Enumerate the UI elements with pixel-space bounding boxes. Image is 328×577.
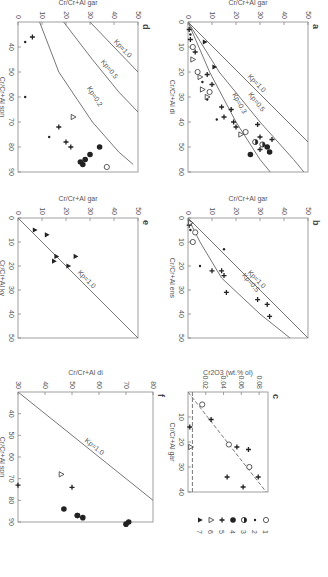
x-tick-label: 10	[178, 413, 185, 421]
x-tick-label: 50	[8, 431, 15, 439]
open-triangle-marker	[209, 517, 214, 522]
x-tick-label: 40	[8, 410, 15, 418]
y-tick-label: 20	[63, 207, 70, 215]
plus-marker	[234, 445, 239, 450]
x-tick-label: 80	[8, 143, 15, 151]
plus-marker	[225, 475, 230, 480]
plus-marker	[16, 483, 21, 488]
small-dot-marker	[201, 81, 203, 83]
plus-marker	[222, 273, 227, 278]
y-tick-label: 40	[42, 381, 49, 389]
legend-item-label: 7	[196, 530, 203, 534]
curve-kp-1-0	[18, 392, 153, 500]
x-tick-label: 80	[8, 496, 15, 504]
x-tick-label: 30	[178, 463, 185, 471]
y-tick-label: 50	[135, 207, 142, 215]
plus-marker	[193, 50, 198, 55]
open-triangle-marker	[191, 57, 196, 62]
x-tick-label: 30	[178, 286, 185, 294]
open-circle-marker	[200, 402, 205, 407]
x-tick-label: 40	[8, 43, 15, 51]
open-triangle-marker	[59, 472, 64, 477]
y-tick-label: 10	[39, 207, 46, 215]
panel-label: c	[271, 394, 281, 399]
filled-triangle-marker	[198, 517, 203, 522]
curve-kp-0-3	[188, 22, 274, 177]
y-tick-label: 60	[96, 381, 103, 389]
x-tick-label: 40	[178, 488, 185, 496]
x-tick-label: 70	[8, 475, 15, 483]
y-axis-label: Cr/Cr+Al di	[68, 369, 103, 376]
plus-marker	[258, 147, 263, 152]
y-axis-label: Cr/Cr+Al gar	[228, 195, 268, 203]
open-circle-marker	[226, 442, 231, 447]
filled-circle-marker	[80, 515, 86, 521]
curve-kp-1-0	[188, 22, 308, 142]
filled-circle-marker	[75, 513, 81, 519]
x-axis-label: Cr/Cr+Al spn	[0, 437, 6, 477]
y-tick-label: 0.06	[238, 375, 245, 389]
open-circle-marker	[263, 517, 268, 522]
y-tick-label: 0.04	[220, 375, 227, 389]
filled-circle-marker	[230, 517, 236, 523]
panel-d: 40506070809001020304050Kp=1.0Kp=0.5Kp=0.…	[0, 0, 151, 176]
x-tick-label: 60	[8, 453, 15, 461]
open-triangle-marker	[198, 74, 203, 79]
plus-marker	[70, 485, 75, 490]
y-tick-label: 40	[281, 11, 288, 19]
plus-marker	[210, 268, 215, 273]
panel-c: 102030400.020.040.060.08cCr/Cr+Al garCr2…	[168, 369, 281, 496]
panel-label: b	[311, 220, 321, 226]
x-tick-label: 10	[178, 43, 185, 51]
x-tick-label: 40	[178, 310, 185, 318]
y-tick-label: 20	[63, 11, 70, 19]
plus-marker	[219, 268, 224, 273]
panel-label: d	[141, 24, 151, 30]
plus-marker	[246, 447, 251, 452]
x-tick-label: 0	[8, 216, 15, 220]
filled-triangle-marker	[45, 232, 50, 237]
y-axis-label: Cr/Cr+Al gar	[58, 0, 98, 7]
y-tick-label: 0.02	[202, 375, 209, 389]
x-tick-label: 50	[178, 334, 185, 342]
plus-marker	[258, 135, 263, 140]
plot-frame	[18, 392, 153, 522]
y-tick-label: 30	[87, 207, 94, 215]
x-tick-label: 60	[178, 168, 185, 176]
plus-marker	[265, 302, 270, 307]
small-dot-marker	[254, 519, 256, 521]
curve-label: Kp=0.5	[246, 91, 266, 114]
x-tick-label: 50	[178, 143, 185, 151]
y-tick-label: 50	[305, 207, 312, 215]
y-tick-label: 0	[185, 211, 192, 215]
x-tick-label: 40	[178, 118, 185, 126]
small-dot-marker	[189, 229, 191, 231]
y-tick-label: 0.08	[256, 375, 263, 389]
open-circle-marker	[190, 44, 195, 49]
plus-marker	[219, 105, 224, 110]
panel-b: 0102030405001020304050Kp=1.0Kp=0.5bCr/Cr…	[169, 195, 321, 343]
panel-f: 405060708090304050607080Kp=1.0fCr/Cr+Al …	[0, 369, 166, 527]
x-tick-label: 20	[178, 68, 185, 76]
y-axis-label: Cr2O3 (wt.% ol)	[203, 369, 253, 377]
plus-marker	[255, 297, 260, 302]
x-axis-label: Cr/Cr+Al ens	[169, 258, 176, 299]
plus-marker	[210, 82, 215, 87]
small-dot-marker	[24, 41, 26, 43]
plus-marker	[205, 72, 210, 77]
y-tick-label: 10	[39, 11, 46, 19]
x-axis-label: Cr/Cr+Al ky	[0, 260, 6, 296]
small-dot-marker	[189, 33, 191, 35]
y-tick-label: 30	[257, 11, 264, 19]
y-tick-label: 30	[15, 381, 22, 389]
y-tick-label: 40	[111, 11, 118, 19]
legend-item-label: 3	[240, 530, 247, 534]
figure: 010203040506001020304050Kp=1.0Kp=0.5Kp=0…	[0, 0, 328, 577]
plus-marker	[241, 485, 246, 490]
open-triangle-marker	[71, 114, 76, 119]
x-tick-label: 0	[178, 20, 185, 24]
open-triangle-marker	[200, 87, 205, 92]
small-dot-marker	[199, 265, 201, 267]
open-circle-marker	[243, 129, 248, 134]
y-tick-label: 40	[111, 207, 118, 215]
